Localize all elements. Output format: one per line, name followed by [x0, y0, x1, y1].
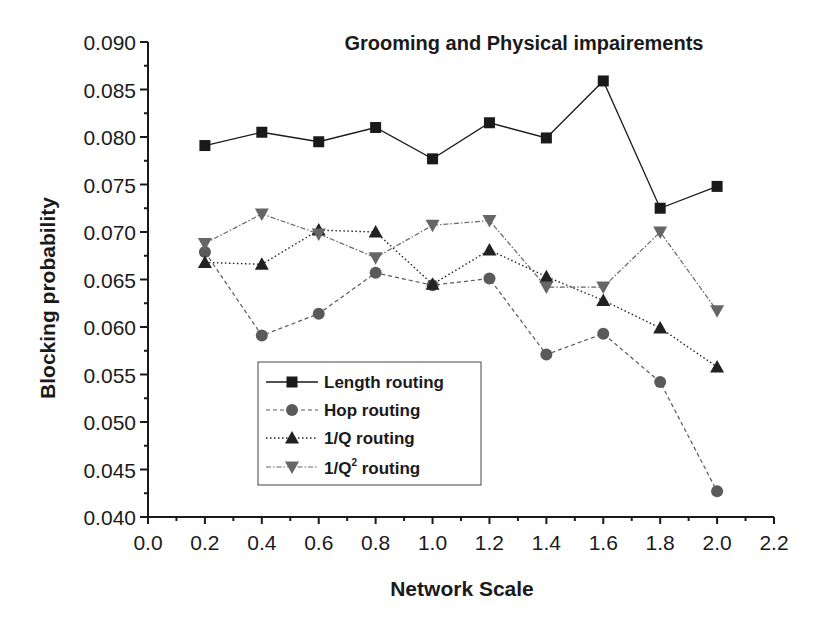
- data-point-circle: [256, 330, 268, 342]
- y-axis-title: Blocking probability: [36, 197, 59, 399]
- data-point-square: [370, 122, 381, 133]
- data-point-circle: [313, 308, 325, 320]
- y-tick-label: 0.055: [83, 364, 136, 387]
- data-point-triangle-down: [369, 252, 383, 265]
- x-tick-label: 1.4: [532, 531, 562, 554]
- y-tick-label: 0.045: [83, 459, 136, 482]
- x-tick-label: 0.8: [361, 531, 390, 554]
- x-tick-label: 0.0: [133, 531, 162, 554]
- series-line: [205, 214, 717, 311]
- data-point-triangle-up: [369, 225, 383, 238]
- x-tick-label: 2.2: [759, 531, 788, 554]
- data-point-triangle-down: [596, 282, 610, 295]
- legend-marker-circle: [286, 404, 298, 416]
- data-point-triangle-down: [710, 305, 724, 318]
- legend-label-1q2: 1/Q2 routing: [324, 457, 420, 478]
- legend-marker-square: [287, 377, 298, 388]
- x-tick-label: 1.6: [589, 531, 618, 554]
- data-point-triangle-up: [596, 293, 610, 306]
- chart-title: Grooming and Physical impairements: [345, 32, 704, 54]
- data-point-square: [712, 181, 723, 192]
- x-tick-label: 1.8: [646, 531, 675, 554]
- line-chart: 0.00.20.40.60.81.01.21.41.61.82.02.20.04…: [0, 0, 816, 629]
- data-point-triangle-up: [710, 360, 724, 373]
- y-tick-label: 0.060: [83, 316, 136, 339]
- x-tick-label: 0.4: [247, 531, 277, 554]
- data-point-circle: [597, 328, 609, 340]
- series-3: [198, 208, 724, 317]
- data-point-triangle-down: [539, 282, 553, 295]
- data-point-circle: [654, 376, 666, 388]
- y-tick-label: 0.090: [83, 31, 136, 54]
- x-tick-label: 0.2: [190, 531, 219, 554]
- x-axis-title: Network Scale: [390, 577, 534, 600]
- y-tick-label: 0.050: [83, 411, 136, 434]
- data-point-triangle-down: [255, 208, 269, 221]
- data-point-square: [256, 127, 267, 138]
- y-tick-label: 0.080: [83, 126, 136, 149]
- x-tick-label: 1.0: [418, 531, 447, 554]
- data-point-square: [313, 136, 324, 147]
- data-point-triangle-up: [198, 255, 212, 268]
- y-tick-label: 0.085: [83, 79, 136, 102]
- data-point-square: [427, 153, 438, 164]
- legend-label-hop: Hop routing: [324, 401, 420, 420]
- y-tick-label: 0.075: [83, 174, 136, 197]
- legend-label-length: Length routing: [324, 373, 444, 392]
- legend: Length routing Hop routing 1/Q routing 1…: [258, 362, 481, 485]
- x-tick-label: 2.0: [702, 531, 731, 554]
- data-point-circle: [483, 273, 495, 285]
- y-tick-label: 0.065: [83, 269, 136, 292]
- data-point-square: [598, 75, 609, 86]
- data-point-triangle-up: [653, 321, 667, 334]
- series-2: [198, 223, 724, 372]
- data-point-triangle-up: [539, 270, 553, 283]
- data-point-circle: [370, 267, 382, 279]
- data-point-square: [655, 203, 666, 214]
- series-line: [205, 81, 717, 208]
- data-point-square: [541, 132, 552, 143]
- data-point-square: [484, 117, 495, 128]
- y-tick-label: 0.070: [83, 221, 136, 244]
- legend-label-1q: 1/Q routing: [324, 429, 415, 448]
- data-point-circle: [540, 349, 552, 361]
- data-point-triangle-up: [482, 243, 496, 256]
- y-tick-label: 0.040: [83, 506, 136, 529]
- data-point-triangle-down: [426, 220, 440, 233]
- x-tick-label: 0.6: [304, 531, 333, 554]
- data-point-square: [199, 140, 210, 151]
- series-0: [199, 75, 722, 213]
- x-tick-label: 1.2: [475, 531, 504, 554]
- data-point-circle: [711, 485, 723, 497]
